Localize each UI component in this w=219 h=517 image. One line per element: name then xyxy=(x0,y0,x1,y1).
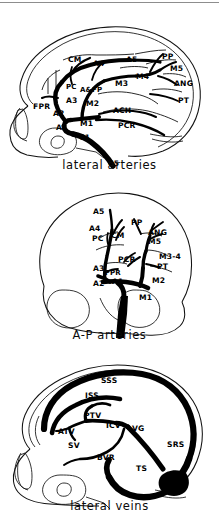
label-sv: SV xyxy=(68,442,80,450)
label-ap-pc: PC xyxy=(92,235,104,243)
label-pcr: PCR xyxy=(118,122,136,130)
caption-lateral-arteries: lateral arteries xyxy=(0,158,219,172)
label-ach: ACH xyxy=(113,107,131,115)
label-cm: CM xyxy=(68,56,82,64)
label-ap-a5: A5 xyxy=(93,208,105,216)
label-ap-a4: A4 xyxy=(89,225,101,233)
label-iss: ISS xyxy=(85,392,99,400)
label-a4: A4 xyxy=(93,60,105,68)
top-divider-rule xyxy=(0,2,219,3)
label-vg: VG xyxy=(132,425,145,433)
label-bvr: BVR xyxy=(97,454,115,462)
label-m5: M5 xyxy=(170,65,183,73)
lateral-arteries-diagram xyxy=(0,8,219,175)
label-ap-pcr: PCR xyxy=(118,256,136,264)
label-a1: A1 xyxy=(56,124,68,132)
label-ptv: PTV xyxy=(84,412,101,420)
label-afp: A&FP xyxy=(80,87,102,94)
label-pc: PC xyxy=(66,84,77,91)
label-ap-a1: A1 xyxy=(112,278,124,286)
label-a3: A3 xyxy=(66,97,78,105)
label-ap-a2: A2 xyxy=(93,280,105,288)
label-srs: SRS xyxy=(167,441,184,449)
label-a5: A5 xyxy=(126,56,138,64)
label-ap-m2: M2 xyxy=(152,277,165,285)
label-a2: A2 xyxy=(53,110,65,118)
label-ap-pt: PT xyxy=(157,263,168,271)
label-ap-ang: ANG xyxy=(148,229,167,237)
label-ts: TS xyxy=(136,465,147,473)
label-ap-fpr: FPR xyxy=(105,270,121,277)
label-m2: M2 xyxy=(86,100,99,108)
ap-arteries-diagram xyxy=(0,178,219,346)
label-m4: M4 xyxy=(136,73,149,81)
label-fpr: FPR xyxy=(33,103,50,111)
label-m1: M1 xyxy=(80,120,93,128)
label-icv: ICV xyxy=(106,422,121,430)
label-c1: C1 xyxy=(79,134,90,142)
label-ap-cm: CM xyxy=(111,232,125,240)
skull-outline-ap xyxy=(40,193,192,335)
panel-lateral-veins: SSS ISS PTV ICV VG ATV SRS SV BVR TS lat… xyxy=(0,349,219,517)
caption-ap-arteries: A-P arteries xyxy=(0,328,219,342)
lateral-veins-diagram xyxy=(0,349,219,517)
panel-lateral-arteries: CM A4 A5 PP M4 M5 M3 ANG PC A&FP PT A3 M… xyxy=(0,8,219,175)
label-ang: ANG xyxy=(174,80,193,88)
label-ap-a3: A3 xyxy=(93,265,105,273)
caption-lateral-veins: lateral veins xyxy=(0,499,219,513)
label-ap-pp: PP xyxy=(131,219,143,227)
label-ap-m5: M5 xyxy=(148,238,161,246)
label-pt: PT xyxy=(178,97,189,105)
label-ap-m1: M1 xyxy=(139,294,152,302)
panel-ap-arteries: A5 PP A4 ANG PC CM M5 M3-4 PCR PT A3 FPR… xyxy=(0,178,219,346)
label-atv: ATV xyxy=(58,428,75,436)
label-m3: M3 xyxy=(115,80,128,88)
figure-root: CM A4 A5 PP M4 M5 M3 ANG PC A&FP PT A3 M… xyxy=(0,0,219,517)
label-sss: SSS xyxy=(101,377,117,385)
label-pp: PP xyxy=(162,53,174,61)
label-ap-m34: M3-4 xyxy=(159,253,181,261)
